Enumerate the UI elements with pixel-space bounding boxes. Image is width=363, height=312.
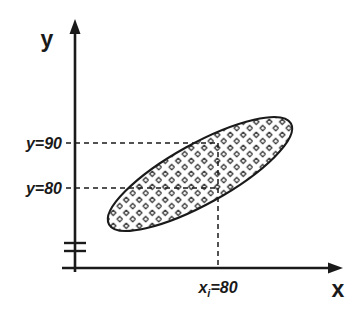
ellipse-fill-stipple — [94, 97, 305, 250]
y-axis-label: y — [41, 26, 54, 52]
right-arrow-axis-icon — [328, 263, 343, 274]
up-arrow-axis-icon — [70, 19, 81, 34]
data-cloud-ellipse — [94, 97, 305, 250]
reference-label-x-i-80: xi=80 — [197, 279, 237, 299]
x-axis-label: x — [332, 276, 345, 302]
scatter-ellipse-diagram: y x y=90 y=80 xi=80 — [0, 0, 363, 312]
reference-label-y-90: y=90 — [25, 135, 62, 152]
reference-label-x-rest: =80 — [210, 279, 237, 296]
reference-label-y-80: y=80 — [25, 180, 62, 197]
figure-root: y x y=90 y=80 xi=80 — [0, 0, 363, 312]
